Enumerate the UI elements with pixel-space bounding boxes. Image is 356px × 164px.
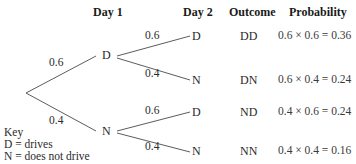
node-day2-nn: N: [192, 144, 201, 159]
outcome-nn: NN: [240, 144, 257, 159]
branch-label-dn: 0.4: [145, 67, 159, 79]
branch-label-root-d: 0.6: [49, 56, 63, 68]
branch-label-dd: 0.6: [145, 29, 159, 41]
branch-label-nn: 0.4: [145, 140, 159, 152]
node-day2-dd: D: [192, 29, 201, 44]
probability-nn: 0.4 × 0.4 = 0.16: [278, 144, 351, 156]
probability-nd: 0.4 × 0.6 = 0.24: [278, 105, 351, 117]
header-day1: Day 1: [93, 5, 123, 20]
node-day2-nd: D: [192, 105, 201, 120]
outcome-dn: DN: [240, 73, 257, 88]
node-day1-d: D: [102, 48, 111, 63]
outcome-nd: ND: [240, 105, 257, 120]
key-n: N = does not drive: [4, 150, 90, 162]
header-probability: Probability: [289, 5, 347, 20]
key-title: Key: [4, 126, 90, 138]
probability-dd: 0.6 × 0.6 = 0.36: [278, 29, 351, 41]
branch-label-nd: 0.6: [145, 104, 159, 116]
header-outcome: Outcome: [229, 5, 276, 20]
node-day1-n: N: [102, 124, 111, 139]
outcome-dd: DD: [240, 29, 257, 44]
branch-label-root-n: 0.4: [49, 114, 63, 126]
key-d: D = drives: [4, 138, 90, 150]
probability-dn: 0.6 × 0.4 = 0.24: [278, 73, 351, 85]
key-legend: Key D = drives N = does not drive: [4, 126, 90, 162]
header-day2: Day 2: [183, 5, 213, 20]
node-day2-dn: N: [192, 73, 201, 88]
